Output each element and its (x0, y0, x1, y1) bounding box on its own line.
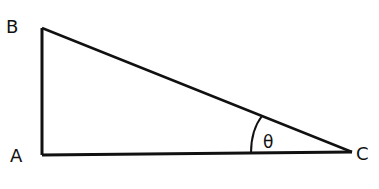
angle-arc (251, 116, 262, 153)
side-bc (42, 28, 352, 152)
side-ac (42, 152, 352, 155)
vertex-label-b: B (6, 16, 18, 37)
vertex-label-a: A (10, 145, 23, 166)
vertex-label-c: C (356, 143, 369, 164)
triangle-svg: B A C θ (0, 0, 379, 189)
triangle-diagram: B A C θ (0, 0, 379, 189)
angle-label-theta: θ (263, 132, 273, 152)
